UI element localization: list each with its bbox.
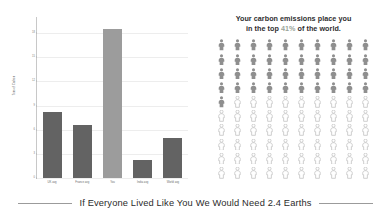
person-icon-empty (314, 139, 321, 151)
chart-plot-area: 0369121518 UK avgFrance avgYouIndia avgW… (36, 17, 188, 179)
footer-caption-row: If Everyone Lived Like You We Would Need… (0, 198, 391, 208)
person-icon-empty (250, 153, 257, 165)
person-icon-empty (250, 96, 257, 108)
person-icon-empty (346, 124, 353, 136)
person-icon-filled (282, 82, 289, 94)
person-icon-filled (330, 39, 337, 51)
person-icon-empty (314, 124, 321, 136)
person-icon-empty (330, 153, 337, 165)
person-icon-filled (362, 39, 369, 51)
person-icon-empty (234, 167, 241, 179)
person-icon-filled (218, 39, 225, 51)
bar-slot: You (97, 17, 127, 178)
person-icon-empty (330, 167, 337, 179)
pictogram-person-grid (214, 38, 373, 180)
person-icon-empty (282, 167, 289, 179)
person-icon-empty (346, 110, 353, 122)
person-icon-empty (282, 96, 289, 108)
headline-line-1: Your carbon emissions place you (236, 14, 352, 23)
bar-slot: UK avg (37, 17, 67, 178)
y-tick-label: 9 (34, 104, 35, 107)
person-icon-filled (314, 39, 321, 51)
person-icon-empty (250, 124, 257, 136)
bar-you (103, 29, 122, 178)
x-tick-label: You (110, 181, 115, 184)
y-axis-title: Tons of Carbon (13, 58, 16, 114)
person-icon-empty (218, 110, 225, 122)
chart-bars: UK avgFrance avgYouIndia avgWorld avg (37, 17, 188, 178)
y-tick-label: 15 (32, 56, 35, 59)
y-tick-label: 18 (32, 32, 35, 35)
person-icon-empty (282, 153, 289, 165)
person-icon-empty (234, 110, 241, 122)
person-icon-empty (362, 139, 369, 151)
person-icon-filled (298, 54, 305, 66)
person-icon-filled (234, 82, 241, 94)
person-icon-empty (330, 139, 337, 151)
person-icon-filled (282, 39, 289, 51)
gridline (37, 178, 188, 179)
person-icon-filled (346, 68, 353, 80)
bar-world-avg (163, 138, 182, 178)
person-icon-empty (314, 96, 321, 108)
person-icon-filled (346, 54, 353, 66)
person-icon-filled (218, 54, 225, 66)
person-icon-empty (234, 139, 241, 151)
person-icon-filled (298, 68, 305, 80)
headline-line-2-before: in the top (246, 24, 281, 33)
person-icon-filled (298, 82, 305, 94)
person-icon-filled (346, 39, 353, 51)
bar-slot: World avg (158, 17, 188, 178)
person-icon-empty (234, 96, 241, 108)
headline-line-2-after: of the world. (296, 24, 341, 33)
person-icon-filled (298, 39, 305, 51)
person-icon-empty (298, 124, 305, 136)
y-tick-label: 12 (32, 80, 35, 83)
person-icon-empty (282, 124, 289, 136)
y-tick-label: 3 (34, 153, 35, 156)
person-icon-empty (330, 96, 337, 108)
x-tick-label: France avg (75, 181, 89, 184)
bar-slot: France avg (67, 17, 97, 178)
person-icon-filled (234, 39, 241, 51)
person-icon-empty (346, 167, 353, 179)
x-tick-label: World avg (167, 181, 180, 184)
person-icon-filled (330, 54, 337, 66)
person-icon-filled (266, 54, 273, 66)
person-icon-filled (282, 54, 289, 66)
person-icon-empty (298, 96, 305, 108)
pictogram-panel: Your carbon emissions place you in the t… (196, 14, 391, 196)
carbon-footprint-result-page: Tons of Carbon 0369121518 UK avgFrance a… (0, 0, 391, 224)
person-icon-filled (362, 68, 369, 80)
person-icon-empty (362, 167, 369, 179)
person-icon-empty (362, 124, 369, 136)
bar-slot: India avg (128, 17, 158, 178)
person-icon-empty (330, 110, 337, 122)
person-icon-empty (362, 153, 369, 165)
pictogram-headline: Your carbon emissions place you in the t… (196, 14, 391, 33)
carbon-bar-chart: Tons of Carbon 0369121518 UK avgFrance a… (0, 8, 196, 196)
person-icon-empty (362, 96, 369, 108)
person-icon-filled (234, 68, 241, 80)
person-icon-empty (266, 110, 273, 122)
person-icon-filled (250, 82, 257, 94)
person-icon-empty (362, 110, 369, 122)
person-icon-filled (218, 68, 225, 80)
person-icon-filled (250, 39, 257, 51)
person-icon-filled (250, 54, 257, 66)
percentile-value: 41% (281, 24, 296, 33)
person-icon-filled (314, 68, 321, 80)
person-icon-filled (362, 82, 369, 94)
footer-caption-text: If Everyone Lived Like You We Would Need… (79, 198, 311, 208)
person-icon-empty (234, 124, 241, 136)
person-icon-empty (218, 124, 225, 136)
person-icon-empty (266, 139, 273, 151)
person-icon-filled (250, 68, 257, 80)
person-icon-empty (218, 139, 225, 151)
person-icon-empty (346, 153, 353, 165)
y-tick-label: 6 (34, 128, 35, 131)
person-icon-empty (330, 124, 337, 136)
person-icon-empty (346, 96, 353, 108)
person-icon-filled (218, 82, 225, 94)
person-icon-filled (266, 82, 273, 94)
